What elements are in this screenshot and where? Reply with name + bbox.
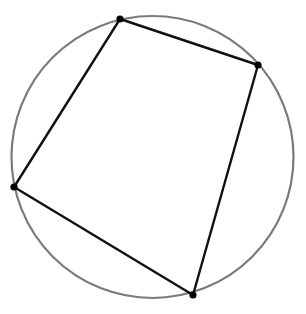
background (0, 0, 306, 314)
vertex-bottom (189, 291, 196, 298)
vertex-top (116, 15, 123, 22)
vertex-left (10, 183, 17, 190)
cyclic-quadrilateral-diagram (0, 0, 306, 314)
vertex-right (254, 61, 261, 68)
